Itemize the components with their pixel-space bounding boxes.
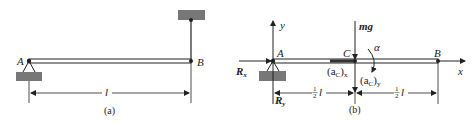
figure-b: y x Rx Ry mg α A C B (aC)x (aC)y bbox=[235, 19, 465, 116]
label-a: A bbox=[16, 55, 24, 67]
figure-a: l A B (a) bbox=[16, 10, 205, 117]
center-c bbox=[353, 59, 357, 63]
acc-y-label: (aC)y bbox=[360, 74, 381, 88]
pin-a bbox=[271, 59, 275, 63]
length-label: l bbox=[105, 86, 108, 98]
svg-text:2: 2 bbox=[395, 92, 399, 100]
svg-text:l: l bbox=[319, 86, 322, 98]
caption-b: (b) bbox=[349, 104, 361, 116]
alpha-label: α bbox=[374, 41, 380, 53]
svg-text:l: l bbox=[401, 86, 404, 98]
label-a: A bbox=[276, 47, 284, 59]
reaction-y-label: Ry bbox=[274, 94, 286, 108]
ground-support bbox=[16, 72, 42, 81]
beam-shading bbox=[330, 60, 355, 63]
caption-a: (a) bbox=[104, 105, 115, 117]
pin-b bbox=[189, 59, 193, 63]
label-c: C bbox=[343, 47, 351, 59]
label-b: B bbox=[434, 47, 441, 59]
weight-label: mg bbox=[359, 20, 374, 32]
half-length-label: 1 2 l bbox=[313, 85, 323, 100]
half-length-label: 1 2 l bbox=[395, 85, 405, 100]
diagram-canvas: l A B (a) y x Rx Ry mg α bbox=[0, 0, 475, 123]
x-axis-label: x bbox=[457, 65, 463, 77]
beam bbox=[29, 59, 191, 63]
acc-x-label: (aC)x bbox=[327, 65, 348, 79]
y-axis-label: y bbox=[279, 19, 285, 31]
label-b: B bbox=[197, 56, 204, 68]
pin-b bbox=[436, 59, 440, 63]
svg-text:2: 2 bbox=[313, 92, 317, 100]
cord-anchor bbox=[189, 18, 193, 22]
reaction-x-label: Rx bbox=[235, 65, 247, 79]
